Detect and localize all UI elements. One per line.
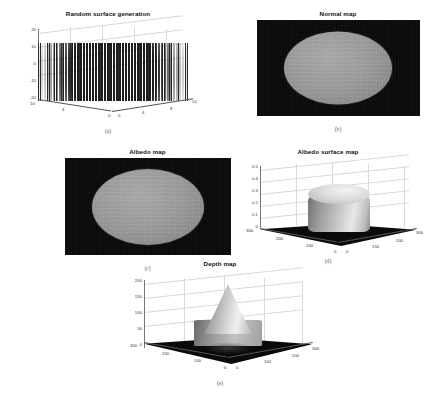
plot-depth-map: 200 150 100 50 0 300 200 100 0 0 100 200… <box>112 270 328 378</box>
z-tick-d-0: 0.5 <box>236 164 258 169</box>
z-tick-e-1: 150 <box>120 294 142 299</box>
y-tick-e-2: 100 <box>194 358 201 363</box>
x-tick-e-0: 0 <box>236 365 238 370</box>
panel-title-albedo-map: Albedo map <box>60 148 235 156</box>
x-tick-d-3: 300 <box>416 230 423 235</box>
z-tick-d-3: 0.2 <box>236 200 258 205</box>
plot-random-surface-generation: 20 10 0 -10 -20 10 4 0 0 4 8 10 <box>8 19 208 119</box>
y-tick-e-3: 0 <box>224 365 226 370</box>
z-tick-a-2: 0 <box>16 61 36 66</box>
caption-e: (e) <box>112 380 328 386</box>
ellipse-shape-normal <box>284 32 392 105</box>
y-tick-d-2: 100 <box>306 243 313 248</box>
z-tick-a-4: -20 <box>14 95 36 100</box>
x-tick-e-3: 300 <box>312 346 319 351</box>
z-tick-d-4: 0.1 <box>236 212 258 217</box>
x-tick-e-1: 100 <box>264 359 271 364</box>
x-tick-a-3: 10 <box>192 99 197 104</box>
figure-container: Random surface generation 20 10 0 -10 -2… <box>0 0 436 402</box>
image-albedo-map <box>65 158 231 255</box>
panel-depth-map: Depth map 200 150 100 50 0 <box>112 260 328 396</box>
plot-albedo-surface-map: 0.5 0.4 0.3 0.2 0.1 0 300 200 100 0 0 15… <box>228 158 428 254</box>
ellipse-shape-albedo <box>92 169 204 245</box>
z-tick-e-3: 50 <box>120 326 142 331</box>
y-tick-e-0: 300 <box>130 343 137 348</box>
caption-a: (a) <box>8 128 208 134</box>
x-tick-d-0: 0 <box>346 249 348 254</box>
panel-title-depth-map: Depth map <box>112 260 328 268</box>
panel-normal-map: Normal map (b) <box>253 10 423 138</box>
y-tick-a-2: 0 <box>108 113 110 118</box>
z-tick-a-1: 10 <box>16 44 36 49</box>
x-tick-a-2: 8 <box>170 106 172 111</box>
panel-random-surface-generation: Random surface generation 20 10 0 -10 -2… <box>8 10 208 138</box>
panel-title-normal-map: Normal map <box>253 10 423 18</box>
caption-b: (b) <box>253 126 423 132</box>
y-tick-d-0: 300 <box>246 228 253 233</box>
panel-albedo-surface-map: Albedo surface map 0.5 0.4 0.3 0.2 0.1 0 <box>228 148 428 268</box>
noise-surface-a <box>38 43 188 101</box>
z-tick-a-0: 20 <box>16 27 36 32</box>
z-axis-e <box>144 280 145 348</box>
x-tick-a-1: 4 <box>142 110 144 115</box>
x-tick-d-1: 150 <box>372 244 379 249</box>
z-tick-d-2: 0.3 <box>236 188 258 193</box>
z-tick-e-0: 200 <box>120 278 142 283</box>
y-tick-a-1: 4 <box>62 107 64 112</box>
plateau-top-d <box>308 184 370 204</box>
image-normal-map <box>257 20 420 116</box>
panel-albedo-map: Albedo map (c) <box>60 148 235 276</box>
x-tick-e-2: 200 <box>292 353 299 358</box>
x-tick-d-2: 200 <box>396 238 403 243</box>
z-axis-d <box>260 166 261 228</box>
z-tick-d-1: 0.4 <box>236 176 258 181</box>
y-tick-e-1: 200 <box>162 351 169 356</box>
x-tick-a-0: 0 <box>118 113 120 118</box>
peak-shadow-e <box>204 342 252 354</box>
y-tick-a-0: 10 <box>30 101 35 106</box>
z-tick-a-3: -10 <box>16 78 36 83</box>
y-tick-d-3: 0 <box>334 249 336 254</box>
z-tick-e-2: 100 <box>120 310 142 315</box>
y-tick-d-1: 200 <box>276 236 283 241</box>
